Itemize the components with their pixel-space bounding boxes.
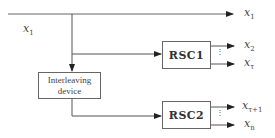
turbo-encoder-diagram: x1 Interleaving device RSC1 ⋮ RSC2 ⋮ x1 … bbox=[0, 0, 275, 138]
rsc2-ellipsis: ⋮ bbox=[216, 110, 220, 115]
output-label-x1: x1 bbox=[244, 6, 255, 21]
input-label-x1: x1 bbox=[23, 22, 34, 37]
rsc1-block: RSC1 bbox=[162, 41, 211, 69]
interleaver-label-line1: Interleaving bbox=[48, 75, 91, 86]
interleaver-label-line2: device bbox=[58, 86, 81, 97]
output-label-xn: xn bbox=[244, 117, 255, 132]
output-label-xtau-plus-1: xτ+1 bbox=[242, 99, 262, 114]
rsc2-block: RSC2 bbox=[162, 101, 211, 129]
rsc1-ellipsis: ⋮ bbox=[216, 49, 220, 54]
rsc2-label: RSC2 bbox=[169, 109, 205, 122]
connector-lines bbox=[0, 0, 275, 138]
output-label-xtau: xτ bbox=[244, 56, 254, 71]
output-label-x2: x2 bbox=[244, 38, 255, 53]
rsc1-label: RSC1 bbox=[169, 49, 205, 62]
interleaving-device-block: Interleaving device bbox=[38, 72, 101, 99]
